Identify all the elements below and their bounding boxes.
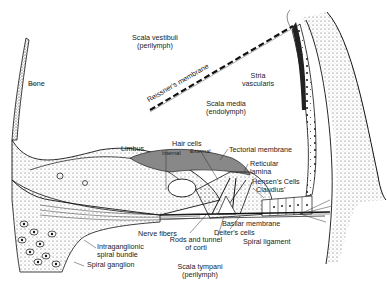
label-rods-and-tunnel: Rods and tunnel of corti [166, 236, 226, 253]
label-spiral-ligament: Spiral ligament [243, 238, 291, 246]
label-intraganglionic-spiral-bundle: Intraganglionic spiral bundle [97, 243, 144, 260]
label-spiral-ganglion: Spiral ganglion [87, 261, 135, 269]
label-scala-vestibuli: Scala vestibuli (perilymph) [120, 34, 190, 51]
spiral-bundle-text: spiral bundle [97, 251, 144, 259]
reissners-membrane [150, 10, 293, 112]
label-tectorial-membrane: Tectorial membrane [229, 146, 292, 154]
vascularis-text: vascularis [238, 80, 278, 88]
label-hair-cells-internal: Internal [162, 149, 181, 157]
label-limbus: Limbus [121, 145, 144, 153]
scala-vestibuli-sub-text: (perilymph) [120, 42, 190, 50]
lamina-text: lamina [250, 168, 278, 176]
label-hair-cells-external: External [190, 147, 211, 155]
scala-media-sub-text: (endolymph) [196, 108, 256, 116]
label-bone: Bone [28, 80, 45, 88]
label-stria-vascularis: Stria vascularis [238, 72, 278, 89]
bone-wall [12, 38, 29, 140]
label-claudius: Claudius' [256, 186, 285, 194]
label-scala-tympani: Scala tympani (perilymph) [170, 263, 230, 280]
label-reticular-lamina: Reticular lamina [250, 160, 278, 177]
of-corti-text: of corti [166, 244, 226, 252]
scala-tympani-sub-text: (perilymph) [170, 271, 230, 279]
label-scala-media: Scala media (endolymph) [196, 100, 256, 117]
outer-wall [292, 12, 386, 264]
